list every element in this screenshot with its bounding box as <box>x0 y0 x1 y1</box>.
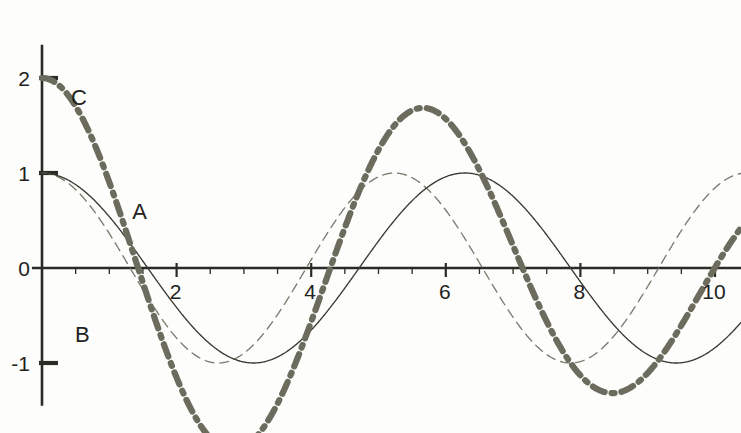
x-axis-tick-label: 6 <box>439 280 451 303</box>
y-axis-tick-label: 1 <box>18 162 30 185</box>
y-axis-tick-label: 0 <box>18 257 30 280</box>
curve-c-path <box>42 78 741 433</box>
series-group <box>42 78 741 433</box>
beats-superposition-chart: 246810 -1012 ABC <box>0 0 741 433</box>
curve-label-a: A <box>132 199 147 224</box>
y-axis-tick-label: -1 <box>11 352 30 375</box>
y-axis-tick-labels: -1012 <box>11 67 30 375</box>
curve-label-b: B <box>75 322 90 347</box>
x-axis-tick-label: 10 <box>702 280 725 303</box>
curve-label-c: C <box>71 85 87 110</box>
x-axis-major-ticks <box>177 263 715 277</box>
y-axis-tick-label: 2 <box>18 67 30 90</box>
x-axis-tick-label: 8 <box>574 280 586 303</box>
x-axis-tick-label: 4 <box>304 280 316 303</box>
x-axis-tick-label: 2 <box>170 280 182 303</box>
x-axis-tick-labels: 246810 <box>170 280 726 303</box>
axes-group <box>32 45 741 406</box>
chart-canvas: 246810 -1012 ABC <box>0 0 741 433</box>
